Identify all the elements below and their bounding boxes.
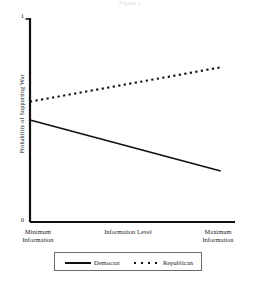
x-tick-maximum-line1: Maximum	[190, 228, 246, 236]
x-axis-label: Information Level	[84, 228, 172, 236]
legend-label-republican: Republican	[163, 259, 193, 267]
x-tick-minimum-line2: Information	[10, 236, 66, 244]
chart-figure: Figure 1 Probability of Supporting War 1…	[0, 0, 253, 283]
legend-item-republican: Republican	[134, 259, 193, 267]
x-tick-minimum-line1: Minimum	[10, 228, 66, 236]
legend-swatch-dotted-icon	[134, 262, 160, 264]
y-tick-label-min: 0	[12, 216, 24, 224]
y-tick-label-max: 1	[12, 12, 24, 20]
series-line-republican	[30, 67, 223, 102]
legend-label-democrat: Democrat	[94, 259, 120, 267]
series-line-democrat	[30, 120, 221, 171]
x-tick-label-minimum: Minimum Information	[10, 228, 66, 245]
x-tick-maximum-line2: Information	[190, 236, 246, 244]
legend-item-democrat: Democrat	[65, 259, 120, 267]
chart-legend: Democrat Republican	[54, 252, 202, 271]
legend-swatch-solid-icon	[65, 262, 91, 264]
legend-items: Democrat Republican	[55, 253, 203, 272]
x-tick-label-maximum: Maximum Information	[190, 228, 246, 245]
y-axis-label: Probability of Supporting War	[18, 49, 26, 179]
